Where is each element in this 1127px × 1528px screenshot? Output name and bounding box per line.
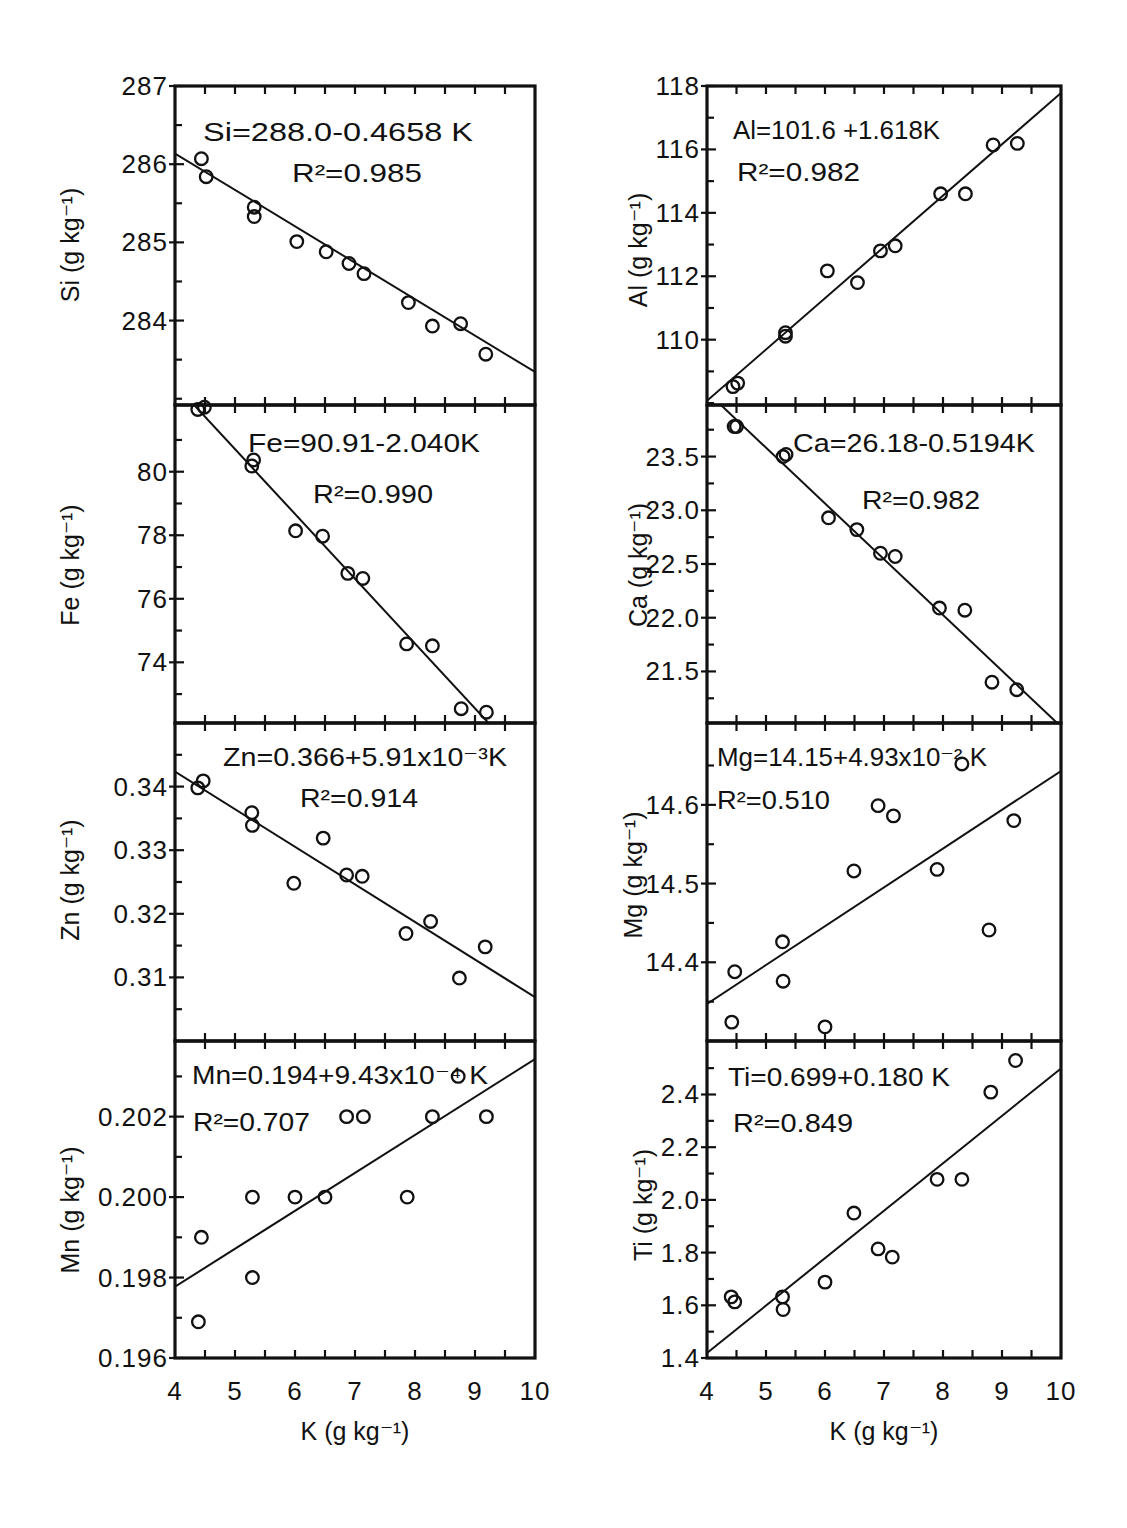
y-tick-label: 118 (656, 71, 700, 101)
y-axis-title: Mn (g kg⁻¹) (56, 1147, 84, 1274)
y-tick-label: 285 (122, 227, 168, 257)
x-axis-title: K (g kg⁻¹) (301, 1417, 410, 1445)
y-tick-label: 80 (137, 457, 168, 487)
data-point (872, 799, 885, 812)
y-tick-label: 78 (137, 520, 168, 550)
data-point (887, 810, 900, 823)
data-point (426, 640, 439, 653)
panel-zn: 0.340.330.320.31Zn=0.366+5.91x10⁻³KR²=0.… (56, 723, 535, 1041)
data-point (872, 1243, 885, 1256)
y-tick-label: 0.200 (98, 1182, 168, 1212)
y-tick-label: 286 (122, 149, 168, 179)
data-point (289, 1191, 302, 1204)
data-point (848, 865, 861, 878)
r2-label: R²=0.707 (193, 1108, 310, 1136)
y-tick-label: 1.8 (661, 1238, 700, 1268)
data-point (289, 525, 302, 538)
data-point (453, 972, 466, 985)
y-tick-label: 0.198 (98, 1263, 168, 1293)
y-tick-label: 22.0 (645, 603, 700, 633)
data-point (819, 1276, 832, 1289)
y-tick-label: 0.34 (113, 772, 168, 802)
data-point (1009, 1054, 1022, 1067)
data-point (822, 512, 835, 525)
data-point (455, 702, 468, 715)
y-tick-label: 14.4 (645, 947, 700, 977)
equation-label: Mn=0.194+9.43x10⁻⁴ K (192, 1061, 488, 1089)
data-point (777, 1303, 790, 1316)
panel-fe: 80787674Fe=90.91-2.040KR²=0.990Fe (g kg⁻… (56, 384, 535, 773)
y-axis-title: Al (g kg⁻¹) (624, 193, 652, 307)
data-point (1008, 814, 1021, 827)
data-point (819, 1021, 832, 1034)
data-point (725, 1016, 738, 1029)
data-point (959, 188, 972, 201)
data-point (291, 235, 304, 248)
y-tick-label: 2.4 (661, 1079, 700, 1109)
regression-line (175, 1059, 535, 1287)
y-axis-title: Si (g kg⁻¹) (56, 188, 84, 302)
y-tick-label: 74 (137, 647, 168, 677)
panel-al: 118116114112110Al=101.6 +1.618KR²=0.982A… (624, 71, 1061, 405)
data-point (246, 1271, 259, 1284)
x-tick-label: 10 (1046, 1376, 1077, 1406)
data-point (195, 152, 208, 165)
data-point (874, 547, 887, 560)
data-point (889, 550, 902, 563)
data-point (479, 941, 492, 954)
data-point (340, 1110, 353, 1123)
y-tick-label: 2.0 (661, 1185, 700, 1215)
x-tick-label: 4 (699, 1376, 714, 1406)
panel-ti: 2.42.22.01.81.61.4Ti=0.699+0.180 KR²=0.8… (629, 1041, 1077, 1445)
data-point (983, 924, 996, 937)
y-tick-label: 116 (656, 134, 700, 164)
y-tick-label: 0.32 (113, 899, 168, 929)
data-point (342, 567, 355, 580)
data-point (248, 210, 261, 223)
x-tick-label: 8 (935, 1376, 950, 1406)
y-tick-label: 0.33 (113, 835, 168, 865)
x-tick-label: 9 (467, 1376, 482, 1406)
data-point (889, 240, 902, 253)
data-point (821, 265, 834, 278)
data-point (424, 915, 437, 928)
data-point (959, 604, 972, 617)
data-point (400, 927, 413, 940)
equation-label: Ca=26.18-0.5194K (793, 429, 1035, 457)
data-point (886, 1251, 899, 1264)
data-point (357, 572, 370, 585)
y-tick-label: 0.196 (98, 1343, 168, 1373)
y-tick-label: 110 (656, 325, 700, 355)
x-axis-title: K (g kg⁻¹) (830, 1417, 939, 1445)
y-tick-label: 76 (137, 584, 168, 614)
y-tick-label: 0.202 (98, 1102, 168, 1132)
r2-label: R²=0.849 (733, 1109, 853, 1137)
data-point (320, 245, 333, 258)
data-point (480, 1110, 493, 1123)
data-point (401, 1191, 414, 1204)
data-point (317, 832, 330, 845)
r2-label: R²=0.982 (737, 158, 860, 186)
data-point (851, 276, 864, 289)
y-tick-label: 14.6 (645, 790, 700, 820)
data-point (192, 1315, 205, 1328)
data-point (848, 1207, 861, 1220)
panel-ca: 23.523.022.522.021.5Ca=26.18-0.5194KR²=0… (624, 392, 1061, 727)
x-tick-label: 4 (167, 1376, 182, 1406)
r2-label: R²=0.985 (292, 159, 422, 187)
y-tick-label: 22.5 (645, 549, 700, 579)
y-tick-label: 0.31 (113, 962, 168, 992)
data-point (987, 139, 1000, 152)
data-point (776, 936, 789, 949)
data-point (984, 1086, 997, 1099)
x-tick-label: 5 (227, 1376, 242, 1406)
y-tick-label: 114 (656, 198, 700, 228)
data-point (356, 870, 369, 883)
data-point (357, 1110, 370, 1123)
figure-canvas: 287286285284Si=288.0-0.4658 KR²=0.985Si … (0, 0, 1127, 1528)
y-tick-label: 284 (122, 306, 168, 336)
x-tick-label: 7 (876, 1376, 891, 1406)
r2-label: R²=0.990 (313, 480, 433, 508)
equation-label: Al=101.6 +1.618K (733, 116, 940, 144)
y-tick-label: 1.4 (661, 1343, 700, 1373)
